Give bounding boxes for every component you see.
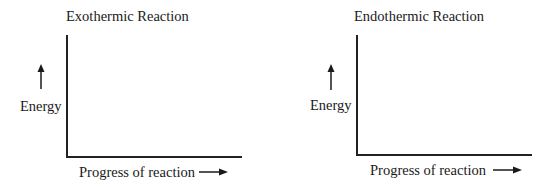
arrow-up-icon (326, 64, 336, 91)
diagram-title: Endothermic Reaction (354, 9, 484, 24)
y-axis (356, 35, 358, 156)
y-axis-label: Energy (310, 98, 352, 113)
x-axis-label: Progress of reaction (370, 163, 486, 178)
arrow-right-icon (493, 165, 523, 175)
endothermic-diagram: Endothermic Reaction Energy Progress of … (0, 0, 553, 187)
x-axis (356, 154, 532, 156)
